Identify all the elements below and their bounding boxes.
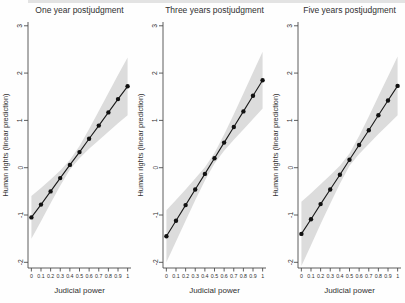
data-point [39,202,43,206]
x-tick-label: 1 [396,273,399,279]
y-tick-label: 1 [152,118,159,122]
x-tick-label: 0.4 [201,273,208,279]
panel-svg-three-years: -2-1012300.10.20.30.40.50.60.70.80.91Thr… [135,0,270,303]
x-tick-label: 0.8 [375,273,382,279]
x-tick-label: 0.7 [230,273,237,279]
x-tick-label: 0.2 [317,273,324,279]
data-point [222,140,226,144]
data-point [77,150,81,154]
x-tick-label: 0.2 [182,273,189,279]
y-axis-title: Human rights (linear prediction) [1,93,10,196]
y-tick-label: 0 [152,166,159,170]
y-tick-label: -2 [152,259,159,265]
data-point [232,125,236,129]
panel-one-year: -2-1012300.10.20.30.40.50.60.70.80.91One… [0,0,135,303]
x-tick-label: 0.6 [85,273,92,279]
panel-row: -2-1012300.10.20.30.40.50.60.70.80.91One… [0,0,405,303]
panel-title: One year postjudgment [35,5,124,15]
x-tick-label: 0.6 [355,273,362,279]
x-tick-label: 0.5 [346,273,353,279]
x-tick-label: 0.9 [384,273,391,279]
data-point [338,173,342,177]
y-tick-label: 0 [17,166,24,170]
y-tick-label: -1 [152,212,159,218]
data-point [318,202,322,206]
data-point [376,113,380,117]
marginal-effects-figure: -2-1012300.10.20.30.40.50.60.70.80.91One… [0,0,405,303]
panel-three-years: -2-1012300.10.20.30.40.50.60.70.80.91Thr… [135,0,270,303]
x-tick-label: 0.9 [249,273,256,279]
data-point [203,172,207,176]
x-tick-label: 0.3 [192,273,199,279]
x-tick-label: 0.3 [327,273,334,279]
y-axis-title: Human rights (linear prediction) [271,93,280,196]
x-tick-label: 0 [165,273,168,279]
x-tick-label: 0.8 [105,273,112,279]
panel-five-years: -2-1012300.10.20.30.40.50.60.70.80.91Fiv… [270,0,405,303]
data-point [386,98,390,102]
x-tick-label: 0.3 [57,273,64,279]
data-point [68,163,72,167]
x-tick-label: 0.8 [240,273,247,279]
x-tick-label: 0.1 [307,273,314,279]
confidence-band [31,58,127,239]
x-axis-title: Judicial power [324,286,375,295]
y-tick-label: 2 [151,71,158,75]
y-tick-label: -2 [17,259,24,265]
panel-title: Three years postjudgment [165,5,264,15]
x-tick-label: 0.6 [220,273,227,279]
y-tick-label: 1 [17,118,24,122]
y-tick-label: 1 [287,118,294,122]
data-point [367,128,371,132]
data-point [328,187,332,191]
x-tick-label: 0 [300,273,303,279]
x-axis-title: Judicial power [54,286,105,295]
data-point [116,97,120,101]
y-tick-label: 3 [16,24,23,28]
data-point [97,123,101,127]
x-tick-label: 0.1 [172,273,179,279]
x-tick-label: 1 [261,273,264,279]
x-axis-title: Judicial power [189,286,240,295]
x-tick-label: 0.9 [114,273,121,279]
data-point [183,203,187,207]
data-point [125,84,129,88]
x-tick-label: 0.4 [336,273,343,279]
data-point [58,176,62,180]
data-point [29,215,33,219]
y-tick-label: -1 [287,212,294,218]
data-point [241,109,245,113]
data-point [174,219,178,223]
x-tick-label: 1 [126,273,129,279]
y-axis-title: Human rights (linear prediction) [136,93,145,196]
top-edge-divider [28,0,405,3]
y-tick-label: 3 [151,24,158,28]
y-tick-label: -2 [287,259,294,265]
x-tick-label: 0.7 [95,273,102,279]
y-tick-label: 0 [287,166,294,170]
x-tick-label: 0.7 [365,273,372,279]
x-tick-label: 0.5 [76,273,83,279]
x-tick-label: 0.5 [211,273,218,279]
data-point [212,156,216,160]
data-point [260,78,264,82]
x-tick-label: 0.4 [66,273,73,279]
x-tick-label: 0.1 [37,273,44,279]
data-point [164,234,168,238]
x-tick-label: 0 [30,273,33,279]
data-point [309,217,313,221]
y-tick-label: 3 [286,24,293,28]
x-tick-label: 0.2 [47,273,54,279]
data-point [87,137,91,141]
y-tick-label: -1 [17,212,24,218]
panel-title: Five years postjudgment [303,5,396,15]
data-point [48,189,52,193]
data-point [357,143,361,147]
data-point [106,110,110,114]
data-point [251,94,255,98]
data-point [299,232,303,236]
data-point [193,187,197,191]
data-point [395,84,399,88]
panel-svg-one-year: -2-1012300.10.20.30.40.50.60.70.80.91One… [0,0,135,303]
data-point [347,158,351,162]
